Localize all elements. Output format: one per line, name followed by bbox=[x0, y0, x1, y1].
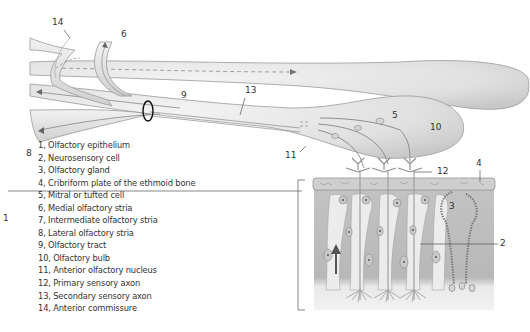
legend-item: 8, Lateral olfactory stria bbox=[38, 227, 195, 240]
callout-10: 10 bbox=[430, 122, 442, 132]
legend-item: 4, Cribriform plate of the ethmoid bone bbox=[38, 177, 195, 190]
olfactory-epithelium-block bbox=[313, 170, 495, 310]
legend-item: 5, Mitral or tufted cell bbox=[38, 189, 195, 202]
callout-9: 9 bbox=[181, 90, 187, 100]
callout-6: 6 bbox=[121, 29, 127, 39]
callout-14: 14 bbox=[52, 17, 64, 27]
callout-1: 1 bbox=[3, 213, 9, 223]
legend-item: 13, Secondary sensory axon bbox=[38, 290, 195, 303]
legend-item: 6, Medial olfactory stria bbox=[38, 202, 195, 215]
callout-12: 12 bbox=[437, 166, 448, 176]
legend-item: 9, Olfactory tract bbox=[38, 239, 195, 252]
legend-item: 10, Olfactory bulb bbox=[38, 252, 195, 265]
legend-item: 2, Neurosensory cell bbox=[38, 152, 195, 165]
legend-item: 12, Primary sensory axon bbox=[38, 277, 195, 290]
callout-3: 3 bbox=[449, 201, 455, 211]
callout-8: 8 bbox=[26, 148, 32, 158]
legend-item: 14, Anterior commissure bbox=[38, 302, 195, 315]
callout-4: 4 bbox=[476, 158, 482, 168]
legend-item: 1, Olfactory epithelium bbox=[38, 139, 195, 152]
callout-2: 2 bbox=[500, 238, 506, 248]
legend-item: 3, Olfactory gland bbox=[38, 164, 195, 177]
legend-item: 11, Anterior olfactory nucleus bbox=[38, 264, 195, 277]
legend: 1, Olfactory epithelium 2, Neurosensory … bbox=[38, 139, 195, 315]
callout-13: 13 bbox=[245, 85, 256, 95]
callout-11: 11 bbox=[285, 150, 296, 160]
legend-item: 7, Intermediate olfactory stria bbox=[38, 214, 195, 227]
callout-5: 5 bbox=[392, 110, 398, 120]
